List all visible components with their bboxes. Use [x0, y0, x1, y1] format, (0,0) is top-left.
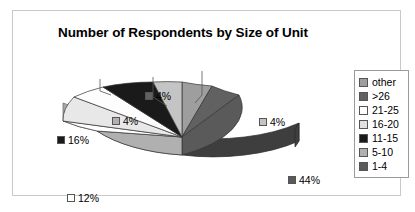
legend-label-21-25: 21-25 — [372, 104, 399, 116]
legend-swatch-16-20 — [359, 120, 368, 129]
data-label-marker-gt26 — [259, 118, 267, 126]
legend-item-11-15[interactable]: 11-15 — [359, 131, 404, 145]
chart-frame: Number of Respondents by Size of Unit — [12, 10, 401, 196]
legend-label-gt26: >26 — [372, 90, 390, 102]
legend-item-21-25[interactable]: 21-25 — [359, 103, 404, 117]
data-label-marker-other — [145, 92, 153, 100]
legend-swatch-21-25 — [359, 106, 368, 115]
legend-swatch-11-15 — [359, 134, 368, 143]
legend-swatch-5-10 — [359, 148, 368, 157]
legend-swatch-other — [359, 78, 368, 87]
data-label-value-11-15: 12% — [78, 193, 99, 204]
legend-label-5-10: 5-10 — [372, 146, 393, 158]
data-label-21-25: 4% — [112, 116, 138, 127]
data-label-other: 4% — [145, 91, 171, 102]
data-label-1-4: 44% — [288, 175, 320, 186]
legend-swatch-gt26 — [359, 92, 368, 101]
legend-item-16-20[interactable]: 16-20 — [359, 117, 404, 131]
legend-item-1-4[interactable]: 1-4 — [359, 159, 404, 173]
legend-label-1-4: 1-4 — [372, 160, 387, 172]
data-label-marker-1-4 — [288, 176, 296, 184]
data-label-value-other: 4% — [156, 91, 171, 102]
data-label-11-15: 12% — [67, 193, 99, 204]
chart-title: Number of Respondents by Size of Unit — [13, 25, 353, 40]
data-label-value-gt26: 4% — [270, 117, 285, 128]
data-label-value-21-25: 4% — [123, 116, 138, 127]
pie-chart-plot: 4% 4% 4% 16% 12% 16% — [27, 51, 337, 201]
data-label-marker-16-20 — [57, 136, 65, 144]
legend-item-5-10[interactable]: 5-10 — [359, 145, 404, 159]
chart-legend: other >26 21-25 16-20 11-15 5-10 — [354, 70, 409, 178]
legend-label-11-15: 11-15 — [372, 132, 398, 144]
data-label-value-16-20: 16% — [68, 135, 89, 146]
data-label-16-20: 16% — [57, 135, 89, 146]
data-label-marker-11-15 — [67, 194, 75, 202]
data-label-value-1-4: 44% — [299, 175, 320, 186]
legend-swatch-1-4 — [359, 162, 368, 171]
legend-item-other[interactable]: other — [359, 75, 404, 89]
legend-label-16-20: 16-20 — [372, 118, 399, 130]
data-label-gt26: 4% — [259, 117, 285, 128]
chart-screenshot: Number of Respondents by Size of Unit — [0, 0, 415, 212]
legend-label-other: other — [372, 76, 396, 88]
legend-item-gt26[interactable]: >26 — [359, 89, 404, 103]
data-label-marker-21-25 — [112, 117, 120, 125]
